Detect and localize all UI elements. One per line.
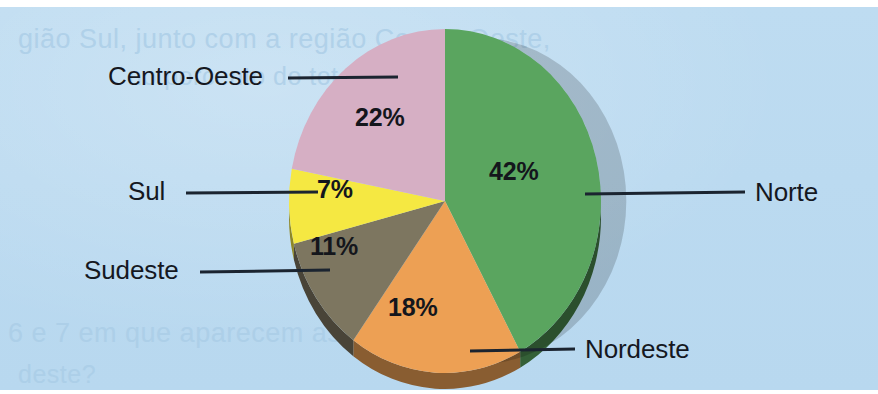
leader-line-sul: [186, 192, 318, 193]
category-label-centro-oeste: Centro-Oeste: [108, 61, 263, 92]
category-label-norte: Norte: [755, 177, 818, 208]
slice-percent-sudeste: 11%: [310, 232, 358, 261]
category-label-sul: Sul: [128, 176, 165, 207]
leader-line-sudeste: [200, 270, 330, 272]
chart-page: gião Sul, junto com a região Centro-Oest…: [0, 0, 878, 394]
category-label-sudeste: Sudeste: [84, 255, 179, 286]
slice-percent-nordeste: 18%: [388, 293, 437, 322]
slice-percent-sul: 7%: [317, 175, 353, 204]
slice-percent-centro-oeste: 22%: [355, 103, 404, 132]
category-label-nordeste: Nordeste: [585, 334, 690, 365]
leader-line-centro-oeste: [288, 77, 398, 78]
slice-percent-norte: 42%: [489, 157, 538, 186]
pie-chart: 42% 18% 11% 7% 22% Norte Nordeste Sudest…: [0, 0, 878, 394]
leader-line-norte: [585, 192, 745, 194]
leader-line-nordeste: [470, 349, 575, 351]
